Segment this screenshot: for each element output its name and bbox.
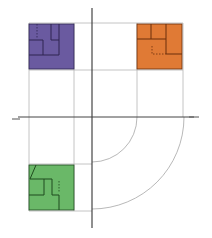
- outer-arc: [92, 117, 184, 209]
- quadrant-diagram: [0, 0, 212, 238]
- inner-arc: [92, 117, 137, 162]
- green-tile: [29, 165, 74, 210]
- quarter-arcs: [92, 117, 184, 209]
- purple-tile: [29, 24, 74, 69]
- orange-tile: [137, 24, 182, 69]
